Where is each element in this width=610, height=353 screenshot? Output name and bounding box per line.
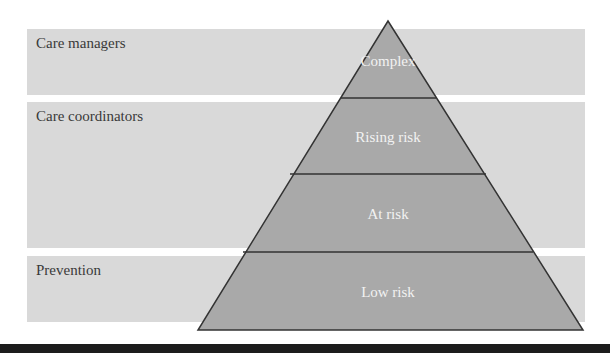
tier-label-at-risk: At risk [367, 206, 409, 222]
tier-label-complex: Complex [361, 53, 416, 69]
risk-pyramid: Complex Rising risk At risk Low risk [0, 0, 610, 353]
population-health-pyramid-diagram: Care managers Care coordinators Preventi… [0, 0, 610, 353]
bottom-border-bar [0, 344, 610, 353]
tier-label-rising-risk: Rising risk [355, 129, 421, 145]
tier-label-low-risk: Low risk [361, 284, 415, 300]
